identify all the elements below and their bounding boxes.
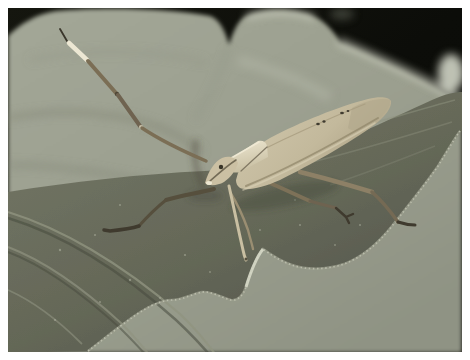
photo-frame bbox=[0, 0, 470, 360]
head-bright-tip bbox=[206, 181, 212, 185]
background-wisp bbox=[330, 8, 354, 20]
insect-photo bbox=[0, 0, 470, 360]
leaf-curl-highlight bbox=[438, 54, 464, 92]
rostrum-tip bbox=[245, 258, 248, 261]
bug-eye bbox=[219, 165, 223, 169]
screenshot bbox=[0, 0, 470, 360]
